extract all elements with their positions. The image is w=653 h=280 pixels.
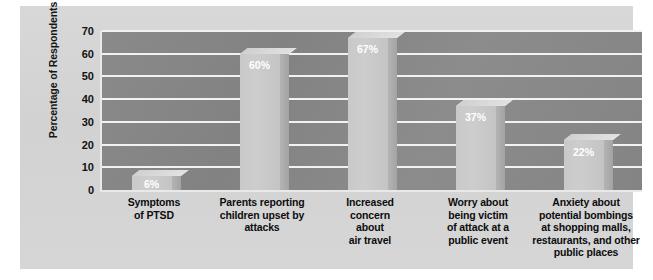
y-axis-tick-60: 60 <box>56 48 94 59</box>
x-axis-label-line: attacks <box>200 221 324 234</box>
bar-chart-figure: Percentage of Respondents 70605040302010… <box>0 0 653 280</box>
x-axis-label-line: at shopping malls, <box>511 221 653 234</box>
x-axis-label-line: about <box>318 221 422 234</box>
bar-value-label: 22% <box>564 147 604 158</box>
bar-top-face <box>564 134 621 140</box>
bar-value-label: 6% <box>132 179 172 190</box>
bars-layer: 6%60%67%37%22% <box>102 31 642 190</box>
x-axis-category-labels: Symptomsof PTSDParents reportingchildren… <box>100 196 640 266</box>
x-axis-label-1: Symptomsof PTSD <box>102 196 206 221</box>
y-axis-tick-labels: 706050403020100 <box>56 31 94 190</box>
x-axis-label-line: concern <box>318 209 422 222</box>
bar-top-face <box>348 32 405 38</box>
x-axis-label-line: Anxiety about <box>511 196 653 209</box>
x-axis-label-line: Symptoms <box>102 196 206 209</box>
bar[interactable]: 67% <box>348 32 397 190</box>
bar-front-face <box>240 54 280 190</box>
x-axis-label-line: potential bombings <box>511 209 653 222</box>
bar-value-label: 60% <box>240 60 280 71</box>
bar-side-face <box>280 51 289 190</box>
bar[interactable]: 60% <box>240 48 289 190</box>
y-axis-tick-40: 40 <box>56 94 94 105</box>
x-axis-label-2: Parents reportingchildren upset byattack… <box>200 196 324 234</box>
x-axis-label-line: public places <box>511 246 653 259</box>
bar-top-face <box>132 170 189 176</box>
bar[interactable]: 37% <box>456 100 505 190</box>
y-axis-tick-0: 0 <box>56 185 94 196</box>
bar-top-face <box>456 100 513 106</box>
bar-side-face <box>604 137 613 190</box>
y-axis-tick-20: 20 <box>56 139 94 150</box>
y-axis-tick-30: 30 <box>56 116 94 127</box>
bar-value-label: 37% <box>456 112 496 123</box>
bar-side-face <box>496 103 505 190</box>
x-axis-label-line: restaurants, and other <box>511 234 653 247</box>
y-axis-tick-70: 70 <box>56 26 94 37</box>
x-axis-label-line: children upset by <box>200 209 324 222</box>
bar-value-label: 67% <box>348 44 388 55</box>
bar-side-face <box>388 35 397 190</box>
bar-top-face <box>240 48 297 54</box>
x-axis-label-line: air travel <box>318 234 422 247</box>
x-axis-label-line: Increased <box>318 196 422 209</box>
x-axis-label-line: of PTSD <box>102 209 206 222</box>
x-axis-label-line: Parents reporting <box>200 196 324 209</box>
plot-area: 6%60%67%37%22% <box>100 31 642 192</box>
bar[interactable]: 6% <box>132 170 181 190</box>
x-axis-label-5: Anxiety aboutpotential bombingsat shoppi… <box>511 196 653 259</box>
y-axis-tick-50: 50 <box>56 71 94 82</box>
chart-canvas: Percentage of Respondents 70605040302010… <box>20 6 633 269</box>
x-axis-label-3: Increasedconcernaboutair travel <box>318 196 422 246</box>
bar[interactable]: 22% <box>564 134 613 190</box>
y-axis-tick-10: 10 <box>56 162 94 173</box>
bar-front-face <box>348 38 388 190</box>
